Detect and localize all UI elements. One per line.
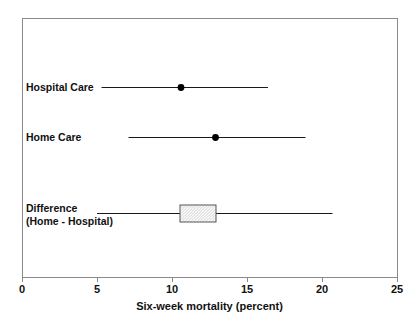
estimate-point-marker xyxy=(212,134,219,141)
x-axis-tick-label: 20 xyxy=(316,284,328,295)
difference-interval-box xyxy=(180,205,216,222)
x-axis-tick-label: 0 xyxy=(19,284,25,295)
chart-figure: 0510152025 Hospital CareHome CareDiffere… xyxy=(0,0,418,324)
row-label-line2: (Home - Hospital) xyxy=(26,215,113,228)
x-axis-tick-label: 25 xyxy=(391,284,403,295)
x-axis-tick-label: 15 xyxy=(241,284,253,295)
row-label: Difference(Home - Hospital) xyxy=(26,202,113,227)
chart-canvas xyxy=(0,0,418,324)
x-axis-tick-label: 10 xyxy=(166,284,178,295)
plot-frame xyxy=(23,19,398,278)
row-label: Home Care xyxy=(26,131,81,144)
estimate-point-marker xyxy=(178,84,185,91)
row-label-line1: Difference xyxy=(26,202,77,214)
row-label: Hospital Care xyxy=(26,81,94,94)
x-axis-title: Six-week mortality (percent) xyxy=(136,300,283,312)
x-axis-tick-label: 5 xyxy=(94,284,100,295)
